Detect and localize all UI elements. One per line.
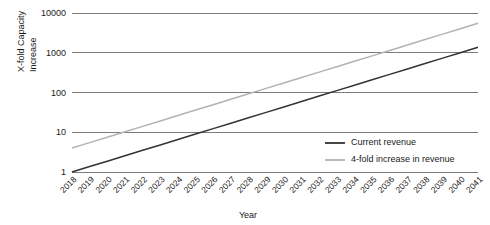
x-tick-label: 2018 xyxy=(58,174,79,195)
x-tick-label: 2036 xyxy=(376,174,397,195)
x-tick-label: 2037 xyxy=(393,174,414,195)
x-tick-label: 2032 xyxy=(305,174,326,195)
y-tick-label: 100 xyxy=(51,88,66,98)
y-axis-title-line2: Increase xyxy=(28,37,38,72)
x-tick-label: 2034 xyxy=(340,174,361,195)
legend-label-1: 4-fold increase in revenue xyxy=(351,154,455,164)
log-line-chart: 100001000100101 201820192020202120222023… xyxy=(0,0,490,225)
x-tick-label: 2019 xyxy=(76,174,97,195)
chart-legend: Current revenue4-fold increase in revenu… xyxy=(325,137,455,164)
x-tick-label: 2031 xyxy=(287,174,308,195)
x-tick-label: 2020 xyxy=(93,174,114,195)
legend-label-0: Current revenue xyxy=(351,137,416,147)
y-tick-label: 1000 xyxy=(46,48,66,58)
x-tick-label: 2022 xyxy=(129,174,150,195)
x-tick-label: 2025 xyxy=(182,174,203,195)
x-tick-label: 2026 xyxy=(199,174,220,195)
y-tick-label: 10 xyxy=(56,127,66,137)
x-axis-tick-labels: 2018201920202021202220232024202520262027… xyxy=(58,174,485,195)
x-tick-label: 2023 xyxy=(146,174,167,195)
x-tick-label: 2039 xyxy=(429,174,450,195)
chart-container: 100001000100101 201820192020202120222023… xyxy=(0,0,490,225)
x-tick-label: 2035 xyxy=(358,174,379,195)
y-axis-title-line1: X-fold Capacity xyxy=(16,10,26,72)
x-tick-label: 2033 xyxy=(323,174,344,195)
x-tick-label: 2027 xyxy=(217,174,238,195)
x-tick-label: 2038 xyxy=(411,174,432,195)
y-tick-label: 10000 xyxy=(41,8,66,18)
series-line-1 xyxy=(72,23,478,148)
x-axis-title: Year xyxy=(239,210,257,220)
x-tick-label: 2028 xyxy=(234,174,255,195)
y-tick-label: 1 xyxy=(61,167,66,177)
data-series-group xyxy=(72,23,478,172)
y-axis-tick-labels: 100001000100101 xyxy=(41,8,66,177)
x-tick-label: 2024 xyxy=(164,174,185,195)
x-tick-label: 2021 xyxy=(111,174,132,195)
x-tick-label: 2029 xyxy=(252,174,273,195)
x-tick-label: 2040 xyxy=(446,174,467,195)
gridlines-group xyxy=(72,13,478,172)
x-tick-label: 2041 xyxy=(464,174,485,195)
x-tick-label: 2030 xyxy=(270,174,291,195)
series-line-0 xyxy=(72,47,478,172)
